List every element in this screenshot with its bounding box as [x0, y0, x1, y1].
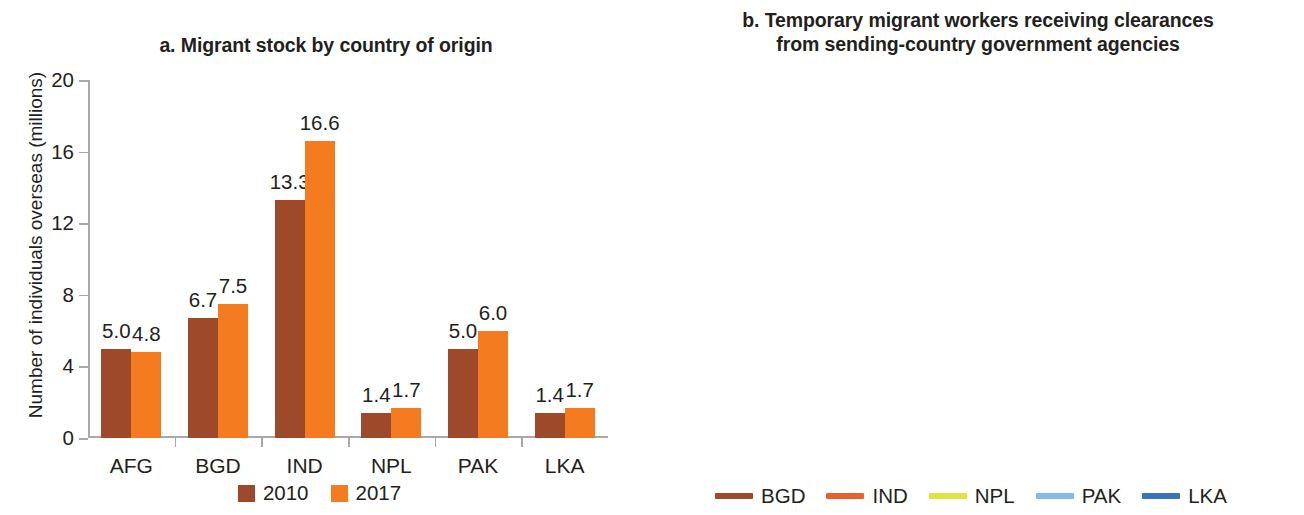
bar-lka-2010 [535, 413, 565, 438]
legend-swatch-icon [331, 485, 348, 502]
panel-a-x-tick-label: NPL [371, 454, 412, 478]
bar-afg-2017 [131, 352, 161, 438]
bar-ind-2010 [275, 200, 305, 438]
panel-a-y-tick-label: 12 [51, 211, 74, 235]
bar-value-label: 5.0 [449, 319, 478, 343]
legend-line-icon [826, 493, 864, 499]
panel-a-y-tick-label: 20 [51, 68, 74, 92]
bar-pak-2010 [448, 349, 478, 439]
bar-bgd-2010 [188, 318, 218, 438]
bar-value-label: 1.4 [535, 383, 564, 407]
bar-afg-2010 [101, 349, 131, 439]
bar-value-label: 5.0 [102, 319, 131, 343]
panel-a-x-tick-label: BGD [195, 454, 241, 478]
legend-label: 2010 [263, 481, 309, 505]
legend-item-PAK[interactable]: PAK [1036, 484, 1122, 508]
panel-a-y-tick-label: 16 [51, 140, 74, 164]
legend-label: LKA [1188, 484, 1227, 508]
legend-label: 2017 [356, 481, 402, 505]
bar-value-label: 7.5 [219, 274, 248, 298]
bar-value-label: 1.7 [392, 378, 421, 402]
panel-a-x-tick-label: LKA [545, 454, 585, 478]
bar-value-label: 13.3 [270, 170, 310, 194]
panel-a-y-tick [79, 295, 88, 297]
panel-a-x-tick [261, 438, 263, 447]
panel-a-migrant-stock: a. Migrant stock by country of origin Nu… [0, 0, 652, 515]
panel-b-title-line-2: from sending-country government agencies [652, 32, 1304, 56]
legend-line-icon [1142, 493, 1180, 499]
panel-a-legend: 20102017 [0, 481, 652, 505]
panel-a-x-tick-label: AFG [110, 454, 153, 478]
bar-value-label: 4.8 [132, 322, 161, 346]
bar-value-label: 16.6 [300, 111, 340, 135]
figure-migration-panels: a. Migrant stock by country of origin Nu… [0, 0, 1304, 515]
legend-line-icon [1036, 493, 1074, 499]
bar-bgd-2017 [218, 304, 248, 438]
panel-a-y-tick-label: 4 [63, 354, 74, 378]
legend-item-NPL[interactable]: NPL [929, 484, 1015, 508]
bar-pak-2017 [478, 331, 508, 438]
panel-a-y-axis-label: Number of individuals overseas (millions… [24, 50, 47, 440]
panel-a-y-tick [79, 80, 88, 82]
legend-item-LKA[interactable]: LKA [1142, 484, 1227, 508]
panel-a-x-tick [348, 438, 350, 447]
legend-label: BGD [761, 484, 805, 508]
panel-a-y-tick [79, 438, 88, 440]
legend-label: NPL [975, 484, 1015, 508]
legend-item-2017[interactable]: 2017 [331, 481, 402, 505]
bar-lka-2017 [565, 408, 595, 438]
legend-line-icon [929, 493, 967, 499]
bar-npl-2010 [361, 413, 391, 438]
legend-label: PAK [1082, 484, 1122, 508]
bar-value-label: 1.4 [362, 383, 391, 407]
panel-a-y-tick [79, 223, 88, 225]
panel-b-title-line-1: b. Temporary migrant workers receiving c… [652, 8, 1304, 32]
panel-a-y-tick [79, 152, 88, 154]
panel-a-y-tick-label: 0 [63, 426, 74, 450]
panel-a-x-tick-label: PAK [458, 454, 498, 478]
panel-a-y-axis [88, 80, 90, 438]
panel-a-title: a. Migrant stock by country of origin [0, 33, 652, 57]
bar-value-label: 1.7 [565, 378, 594, 402]
legend-item-2010[interactable]: 2010 [238, 481, 309, 505]
panel-a-y-tick-label: 8 [63, 283, 74, 307]
panel-a-x-tick-label: IND [287, 454, 323, 478]
panel-b-title: b. Temporary migrant workers receiving c… [652, 8, 1304, 56]
panel-a-x-tick [435, 438, 437, 447]
bar-npl-2017 [391, 408, 421, 438]
panel-b-legend: BGDINDNPLPAKLKA [652, 484, 1304, 508]
legend-item-BGD[interactable]: BGD [715, 484, 805, 508]
bar-ind-2017 [305, 141, 335, 438]
bar-value-label: 6.7 [189, 288, 218, 312]
bar-value-label: 6.0 [479, 301, 508, 325]
legend-label: IND [872, 484, 907, 508]
legend-line-icon [715, 493, 753, 499]
legend-item-IND[interactable]: IND [826, 484, 907, 508]
panel-a-x-tick [175, 438, 177, 447]
panel-a-plot-area: 048121620AFG5.04.8BGD6.77.5IND13.316.6NP… [88, 80, 608, 438]
panel-b-temporary-workers: b. Temporary migrant workers receiving c… [652, 0, 1304, 515]
panel-a-y-tick [79, 366, 88, 368]
legend-swatch-icon [238, 485, 255, 502]
panel-a-x-tick [521, 438, 523, 447]
